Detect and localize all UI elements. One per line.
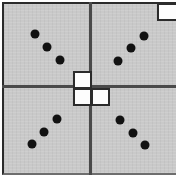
dot-bottom-right-1 xyxy=(116,116,125,125)
dot-top-left-3 xyxy=(56,56,65,65)
dot-bottom-left-3 xyxy=(53,115,62,124)
center-lower-right-cell xyxy=(91,88,110,106)
top-right-corner-cell xyxy=(157,3,176,21)
dot-bottom-right-3 xyxy=(141,141,150,150)
dot-top-left-1 xyxy=(31,30,40,39)
figure-root xyxy=(0,0,176,177)
dot-top-right-1 xyxy=(114,57,123,66)
dot-top-right-2 xyxy=(127,44,136,53)
dot-bottom-left-1 xyxy=(28,140,37,149)
center-lower-left-cell xyxy=(73,88,92,106)
dot-bottom-right-2 xyxy=(129,129,138,138)
dot-top-left-2 xyxy=(43,43,52,52)
dot-bottom-left-2 xyxy=(40,128,49,137)
center-upper-left-cell xyxy=(73,71,92,89)
dot-top-right-3 xyxy=(140,32,149,41)
